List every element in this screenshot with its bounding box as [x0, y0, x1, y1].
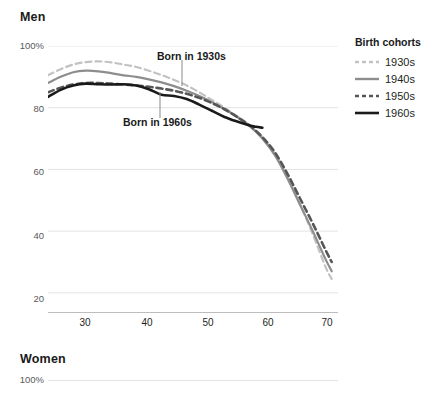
legend-swatch-1930s-icon: [355, 57, 379, 67]
women-plot-area: [48, 378, 338, 412]
y-tick-label-60: 60: [10, 166, 44, 177]
chart-page: Men 100% 80 60 40 20 30 40 50 60 70 Born…: [0, 0, 443, 412]
legend-swatch-1940s-icon: [355, 74, 379, 84]
legend-label-1930s: 1930s: [385, 56, 415, 68]
legend-label-1940s: 1940s: [385, 73, 415, 85]
men-chart-svg: [48, 46, 338, 313]
legend-item-1940s[interactable]: 1940s: [355, 70, 441, 87]
women-y-tick-label-100: 100%: [10, 374, 44, 385]
legend-label-1950s: 1950s: [385, 90, 415, 102]
annotation-born-in-1960s: Born in 1960s: [123, 116, 192, 128]
legend-title: Birth cohorts: [355, 36, 441, 48]
legend-label-1960s: 1960s: [385, 107, 415, 119]
panel-title-men: Men: [20, 10, 46, 24]
x-tick-label-60: 60: [253, 317, 283, 328]
y-tick-label-100: 100%: [10, 40, 44, 51]
y-tick-label-40: 40: [10, 230, 44, 241]
legend-swatch-1950s-icon: [355, 91, 379, 101]
men-plot-area: [48, 46, 338, 313]
x-tick-label-70: 70: [312, 317, 342, 328]
legend-item-1930s[interactable]: 1930s: [355, 53, 441, 70]
legend-swatch-1960s-icon: [355, 108, 379, 118]
legend-item-1950s[interactable]: 1950s: [355, 87, 441, 104]
panel-title-women: Women: [20, 352, 66, 366]
annotation-born-in-1930s: Born in 1930s: [157, 50, 226, 62]
women-chart-svg: [48, 378, 338, 412]
series-line-1950s: [48, 83, 332, 262]
x-tick-label-30: 30: [70, 317, 100, 328]
x-tick-label-50: 50: [193, 317, 223, 328]
legend: Birth cohorts 1930s 1940s: [355, 36, 441, 121]
legend-item-1960s[interactable]: 1960s: [355, 104, 441, 121]
y-tick-label-20: 20: [10, 293, 44, 304]
x-tick-label-40: 40: [132, 317, 162, 328]
y-tick-label-80: 80: [10, 103, 44, 114]
